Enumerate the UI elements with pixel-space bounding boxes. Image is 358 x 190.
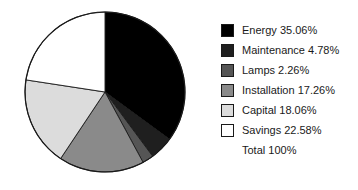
legend-label-capital: Capital 18.06%: [242, 104, 317, 117]
legend-swatch-savings: [221, 124, 234, 137]
legend-label-maintenance: Maintenance 4.78%: [242, 44, 339, 57]
legend-item-lamps[interactable]: Lamps 2.26%: [221, 60, 355, 80]
legend-swatch-capital: [221, 104, 234, 117]
legend-label-total: Total 100%: [242, 144, 296, 157]
legend-label-lamps: Lamps 2.26%: [242, 64, 309, 77]
legend-item-maintenance[interactable]: Maintenance 4.78%: [221, 40, 355, 60]
pie-chart-figure: Energy 35.06% Maintenance 4.78% Lamps 2.…: [0, 0, 358, 190]
pie-slice-group: [25, 12, 185, 172]
legend-swatch-total: [221, 144, 234, 157]
legend-label-savings: Savings 22.58%: [242, 124, 322, 137]
pie-svg: [24, 11, 186, 173]
legend-item-total: Total 100%: [221, 140, 355, 160]
legend-swatch-lamps: [221, 64, 234, 77]
pie-plot-area: [24, 11, 186, 173]
legend-item-savings[interactable]: Savings 22.58%: [221, 120, 355, 140]
legend-item-installation[interactable]: Installation 17.26%: [221, 80, 355, 100]
legend-item-capital[interactable]: Capital 18.06%: [221, 100, 355, 120]
legend-swatch-installation: [221, 84, 234, 97]
legend-label-energy: Energy 35.06%: [242, 24, 317, 37]
legend-item-energy[interactable]: Energy 35.06%: [221, 20, 355, 40]
chart-legend: Energy 35.06% Maintenance 4.78% Lamps 2.…: [221, 20, 355, 160]
legend-swatch-maintenance: [221, 44, 234, 57]
pie-slice-savings[interactable]: [26, 12, 105, 92]
legend-swatch-energy: [221, 24, 234, 37]
legend-label-installation: Installation 17.26%: [242, 84, 335, 97]
